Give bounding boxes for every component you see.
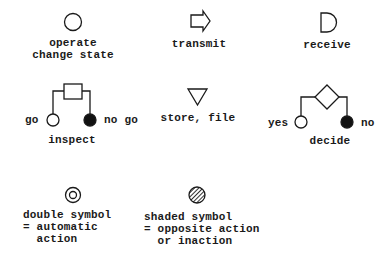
decide-diamond-icon bbox=[315, 85, 339, 109]
store-triangle-icon bbox=[188, 89, 207, 105]
operate-circle-icon bbox=[65, 14, 82, 31]
no-go-label: no go bbox=[104, 114, 138, 126]
receive-d-icon bbox=[321, 13, 337, 32]
receive-label: receive bbox=[303, 39, 351, 51]
double-symbol-line3: action bbox=[23, 233, 77, 245]
decide-label: decide bbox=[310, 135, 351, 147]
no-filled-circle-icon bbox=[341, 116, 353, 128]
shaded-circle-icon bbox=[189, 187, 205, 203]
operate-label: operate bbox=[49, 37, 97, 49]
shaded-symbol-line1: shaded symbol bbox=[144, 211, 232, 223]
inspect-label: inspect bbox=[48, 134, 96, 146]
change-state-label: change state bbox=[32, 49, 114, 61]
transmit-arrow-icon bbox=[191, 11, 210, 31]
yes-circle-icon bbox=[295, 116, 307, 128]
inspect-square-icon bbox=[64, 84, 82, 99]
go-circle-icon bbox=[47, 114, 59, 126]
no-go-filled-circle-icon bbox=[84, 114, 96, 126]
store-file-label: store, file bbox=[161, 112, 236, 124]
go-label: go bbox=[25, 114, 39, 126]
double-circle-icon bbox=[66, 188, 81, 203]
double-symbol-line1: double symbol bbox=[23, 209, 111, 221]
no-label: no bbox=[361, 117, 375, 129]
transmit-label: transmit bbox=[172, 38, 226, 50]
yes-label: yes bbox=[268, 117, 288, 129]
double-symbol-line2: = automatic bbox=[23, 221, 98, 233]
shaded-symbol-line2: = opposite action bbox=[144, 223, 260, 235]
shaded-symbol-line3: or inaction bbox=[144, 235, 232, 247]
